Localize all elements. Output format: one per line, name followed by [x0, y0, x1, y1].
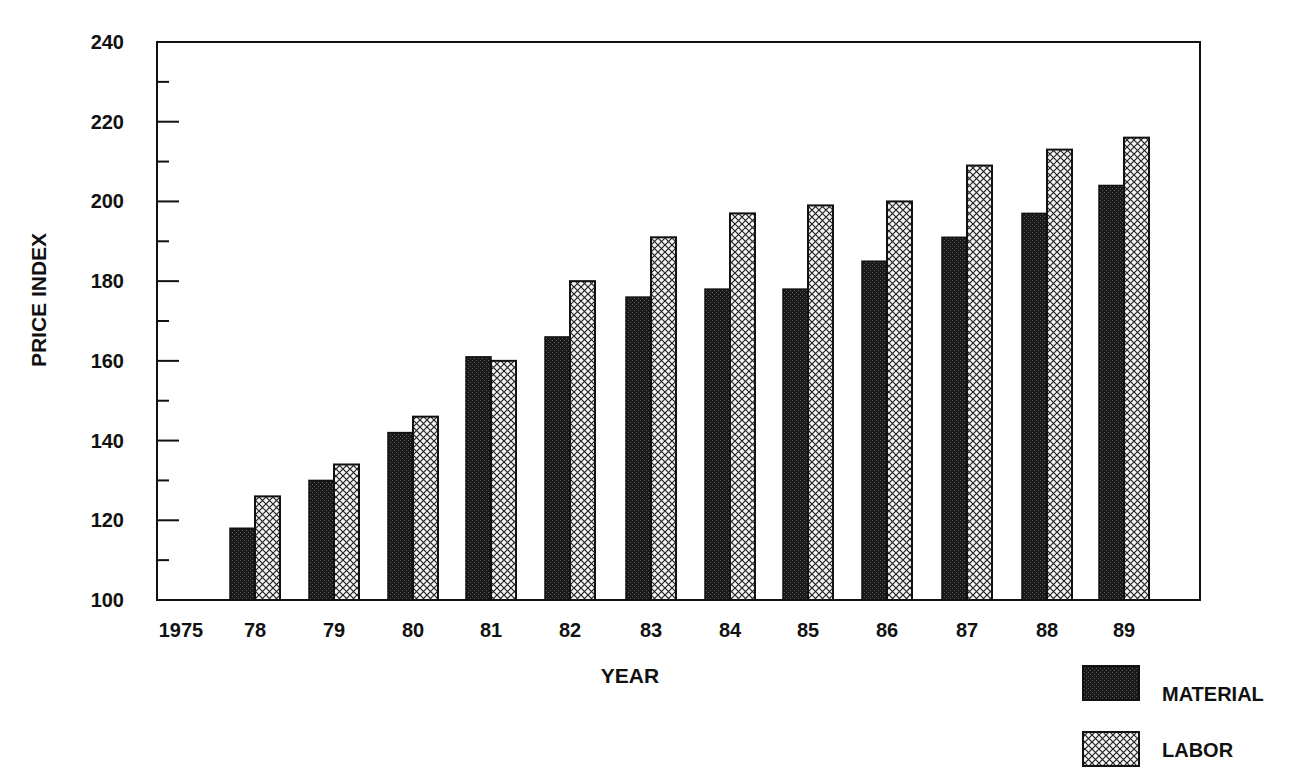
bar-material [230, 528, 255, 600]
bar-material [466, 357, 491, 600]
legend-swatch-material [1083, 666, 1139, 700]
bar-labor [808, 205, 833, 600]
bar-labor [967, 166, 992, 600]
bar-labor [1047, 150, 1072, 600]
bar-material [309, 480, 334, 600]
y-tick-label: 160 [91, 350, 124, 372]
bar-labor [730, 213, 755, 600]
x-axis: 1975787980818283848586878889 [159, 619, 1135, 641]
y-tick-label: 220 [91, 111, 124, 133]
x-axis-title: YEAR [601, 664, 659, 687]
bar-material [626, 297, 651, 600]
y-tick-label: 240 [91, 31, 124, 53]
x-tick-label: 80 [402, 619, 424, 641]
x-tick-label: 84 [719, 619, 742, 641]
x-tick-label: 79 [323, 619, 345, 641]
y-tick-label: 200 [91, 190, 124, 212]
bar-material [1022, 213, 1047, 600]
bar-labor [651, 237, 676, 600]
x-tick-label: 86 [876, 619, 898, 641]
legend-item-labor: LABOR [1083, 732, 1234, 766]
y-tick-label: 180 [91, 270, 124, 292]
y-axis-title: PRICE INDEX [27, 233, 50, 367]
x-tick-label: 85 [797, 619, 819, 641]
bars [230, 138, 1149, 600]
bar-material [783, 289, 808, 600]
bar-material [1099, 185, 1124, 600]
bar-labor [491, 361, 516, 600]
x-tick-label: 82 [559, 619, 581, 641]
bar-labor [334, 464, 359, 600]
x-tick-label: 81 [480, 619, 502, 641]
legend: MATERIAL LABOR [1083, 666, 1264, 766]
x-tick-label: 1975 [159, 619, 204, 641]
legend-item-material: MATERIAL [1083, 666, 1264, 705]
bar-material [862, 261, 887, 600]
bar-material [942, 237, 967, 600]
bar-labor [255, 496, 280, 600]
bar-labor [413, 417, 438, 600]
legend-label-material: MATERIAL [1162, 683, 1264, 705]
bar-material [388, 433, 413, 600]
y-tick-label: 140 [91, 430, 124, 452]
x-tick-label: 83 [640, 619, 662, 641]
x-tick-label: 88 [1036, 619, 1058, 641]
bar-material [705, 289, 730, 600]
y-tick-label: 120 [91, 509, 124, 531]
x-tick-label: 87 [956, 619, 978, 641]
y-axis: 100120140160180200220240 [91, 31, 179, 611]
bar-chart: 100120140160180200220240 197578798081828… [0, 0, 1302, 782]
y-tick-label: 100 [91, 589, 124, 611]
bar-material [545, 337, 570, 600]
legend-label-labor: LABOR [1162, 739, 1234, 761]
bar-labor [1124, 138, 1149, 600]
bar-labor [570, 281, 595, 600]
legend-swatch-labor [1083, 732, 1139, 766]
x-tick-label: 78 [244, 619, 266, 641]
bar-labor [887, 201, 912, 600]
x-tick-label: 89 [1113, 619, 1135, 641]
